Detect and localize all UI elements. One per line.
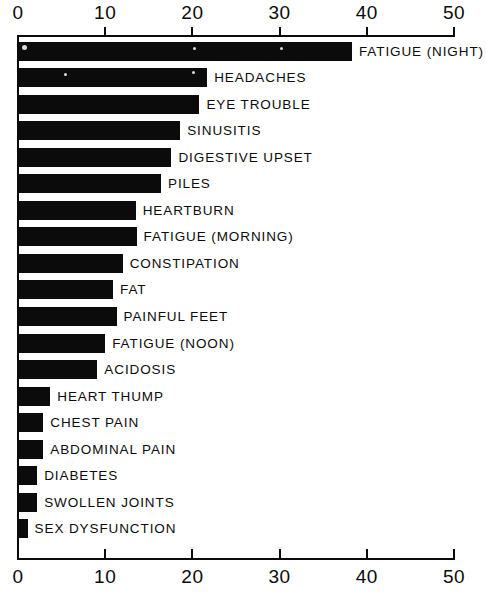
bar-label: CONSTIPATION <box>130 254 240 273</box>
bar <box>18 254 123 273</box>
bottom-tick-mark-20 <box>191 549 193 559</box>
plot-area: FATIGUE (NIGHT)HEADACHESEYE TROUBLESINUS… <box>0 0 486 598</box>
print-speck-4 <box>192 71 195 74</box>
bar-row: SWOLLEN JOINTS <box>0 493 486 520</box>
bottom-tick-mark-10 <box>104 549 106 559</box>
bar <box>18 519 28 538</box>
bar-row: FATIGUE (NIGHT) <box>0 42 486 69</box>
bar-row: HEADACHES <box>0 68 486 95</box>
bar-label: DIGESTIVE UPSET <box>178 148 312 167</box>
bottom-tick-label-10: 10 <box>94 566 116 588</box>
bar-row: FATIGUE (NOON) <box>0 334 486 361</box>
bar <box>18 95 199 114</box>
bar <box>18 121 180 140</box>
bottom-tick-label-50: 50 <box>443 566 465 588</box>
bar-label: SWOLLEN JOINTS <box>44 493 174 512</box>
bar-row: DIGESTIVE UPSET <box>0 148 486 175</box>
bar-label: SEX DYSFUNCTION <box>35 519 177 538</box>
bar <box>18 413 43 432</box>
bar-row: FATIGUE (MORNING) <box>0 227 486 254</box>
bar <box>18 42 352 61</box>
bar-label: DIABETES <box>44 466 118 485</box>
bottom-axis-line <box>17 558 455 560</box>
bar-label: CHEST PAIN <box>50 413 139 432</box>
bar <box>18 174 161 193</box>
bar <box>18 68 207 87</box>
bar <box>18 360 97 379</box>
bottom-tick-mark-40 <box>366 549 368 559</box>
bar-chart: 01020304050 FATIGUE (NIGHT)HEADACHESEYE … <box>0 0 486 598</box>
print-speck-1 <box>193 47 196 50</box>
bar-row: EYE TROUBLE <box>0 95 486 122</box>
bar-row: FAT <box>0 280 486 307</box>
bar <box>18 280 113 299</box>
bar-label: FATIGUE (NIGHT) <box>359 42 484 61</box>
bar <box>18 387 50 406</box>
bar <box>18 201 136 220</box>
bar-label: ABDOMINAL PAIN <box>50 440 176 459</box>
bar <box>18 440 43 459</box>
bar-row: PAINFUL FEET <box>0 307 486 334</box>
bottom-tick-label-20: 20 <box>181 566 203 588</box>
bar-row: ACIDOSIS <box>0 360 486 387</box>
bar <box>18 227 137 246</box>
bar-row: HEART THUMP <box>0 387 486 414</box>
bar <box>18 334 105 353</box>
bottom-tick-label-40: 40 <box>356 566 378 588</box>
bottom-tick-label-30: 30 <box>269 566 291 588</box>
bar-label: FAT <box>120 280 146 299</box>
bottom-tick-mark-30 <box>279 549 281 559</box>
bar-row: SINUSITIS <box>0 121 486 148</box>
bar <box>18 493 37 512</box>
bar-row: CONSTIPATION <box>0 254 486 281</box>
bar-row: CHEST PAIN <box>0 413 486 440</box>
print-speck-0 <box>22 45 27 50</box>
print-speck-3 <box>64 73 67 76</box>
print-speck-2 <box>280 47 283 50</box>
bar-label: PILES <box>168 174 211 193</box>
bar-row: DIABETES <box>0 466 486 493</box>
bar <box>18 307 117 326</box>
bar-label: FATIGUE (MORNING) <box>144 227 294 246</box>
bottom-tick-label-0: 0 <box>12 566 23 588</box>
bar-label: HEARTBURN <box>143 201 235 220</box>
bar-label: HEART THUMP <box>57 387 164 406</box>
bar-label: EYE TROUBLE <box>206 95 310 114</box>
bar-label: PAINFUL FEET <box>124 307 229 326</box>
bar-row: PILES <box>0 174 486 201</box>
bar-label: ACIDOSIS <box>104 360 176 379</box>
bar-row: ABDOMINAL PAIN <box>0 440 486 467</box>
bar-label: SINUSITIS <box>187 121 261 140</box>
bar-row: HEARTBURN <box>0 201 486 228</box>
bar <box>18 466 37 485</box>
bar-row: SEX DYSFUNCTION <box>0 519 486 546</box>
bar-label: FATIGUE (NOON) <box>112 334 235 353</box>
bottom-axis-tick-labels: 01020304050 <box>0 566 486 590</box>
bar <box>18 148 171 167</box>
bar-label: HEADACHES <box>214 68 306 87</box>
